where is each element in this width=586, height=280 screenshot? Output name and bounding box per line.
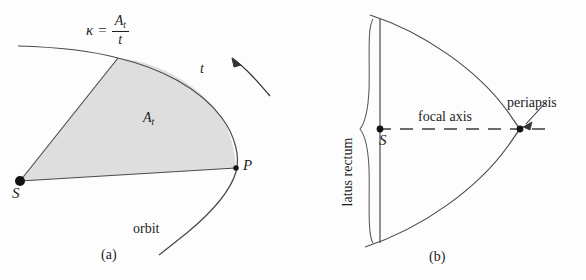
panel-b-graphic (293, 0, 586, 280)
kappa-symbol: κ (86, 23, 93, 38)
fraction-numerator: At (112, 14, 129, 31)
figure-container: κ = At t At t S P orbit (a) la (0, 0, 586, 280)
numerator-base: A (115, 13, 124, 28)
periapsis-leader-arrowhead (523, 122, 532, 130)
swept-area-label: At (143, 111, 154, 127)
swept-area-base: A (143, 110, 152, 125)
fraction: At t (112, 14, 129, 47)
periapsis-dot (517, 126, 524, 133)
orbiting-point-dot (233, 165, 238, 170)
focus-label-b: S (379, 133, 387, 148)
orbit-label: orbit (133, 222, 159, 236)
orbiting-point-label: P (243, 158, 252, 173)
focus-label-a: S (12, 186, 20, 201)
fraction-denominator: t (115, 32, 125, 47)
panel-a-caption: (a) (101, 248, 117, 262)
swept-area-shape (20, 58, 236, 181)
time-label: t (200, 62, 204, 76)
latus-rectum-brace (360, 19, 373, 243)
swept-area-subscript: t (152, 117, 155, 127)
panel-b-caption: (b) (429, 250, 445, 264)
focal-axis-label: focal axis (418, 110, 472, 124)
equals-symbol: = (98, 23, 106, 38)
kappa-formula: κ = At t (86, 14, 129, 47)
panel-a-graphic (0, 0, 293, 280)
latus-rectum-label: latus rectum (341, 138, 355, 207)
periapsis-label: periapsis (507, 96, 557, 110)
numerator-subscript: t (123, 20, 126, 30)
direction-arrowhead (232, 58, 241, 67)
parabola-curve (365, 15, 520, 247)
